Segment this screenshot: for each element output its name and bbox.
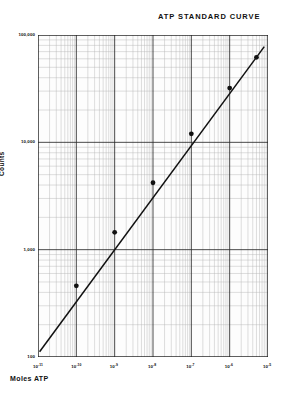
chart-figure: ATP STANDARD CURVE Counts Moles ATP 100,… (0, 0, 288, 407)
data-point-marker (151, 180, 156, 185)
y-axis-title: Counts (0, 151, 5, 176)
x-tick-label: 10-7 (186, 363, 194, 369)
plot-area (38, 35, 268, 357)
y-tick-label: 10,000 (0, 139, 35, 144)
x-axis-title: Moles ATP (10, 375, 49, 382)
data-point-marker (227, 86, 232, 91)
data-point-marker (254, 55, 259, 60)
y-tick-label: 100 (0, 354, 35, 359)
data-point-marker (189, 131, 194, 136)
data-point-marker (112, 230, 117, 235)
x-tick-label: 10-9 (110, 363, 118, 369)
y-tick-label: 100,000 (0, 32, 35, 37)
x-tick-label: 10-6 (225, 363, 233, 369)
chart-title: ATP STANDARD CURVE (158, 12, 260, 21)
log-log-plot (38, 35, 268, 357)
x-tick-label: 10-10 (71, 363, 81, 369)
data-point-marker (74, 283, 79, 288)
y-tick-label: 1,000 (0, 247, 35, 252)
x-tick-label: 10-11 (33, 363, 43, 369)
x-tick-label: 10-5 (263, 363, 271, 369)
x-tick-label: 10-8 (148, 363, 156, 369)
